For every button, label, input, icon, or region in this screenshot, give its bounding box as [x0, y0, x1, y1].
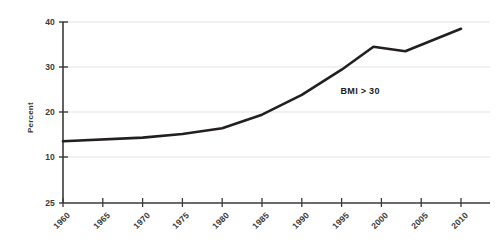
- y-axis-label-20: 20: [29, 107, 55, 117]
- series-line-bmi-over-30: [63, 29, 461, 142]
- y-axis-label-10: 10: [29, 152, 55, 162]
- data-series-line: [63, 29, 461, 142]
- y-axis-label-25: 25: [29, 198, 55, 208]
- series-annotation-label: BMI > 30: [341, 86, 380, 96]
- chart-container: Percent 4030201025 196019651970197519801…: [0, 0, 498, 247]
- y-axis-label-30: 30: [29, 62, 55, 72]
- y-axis-label-40: 40: [29, 17, 55, 27]
